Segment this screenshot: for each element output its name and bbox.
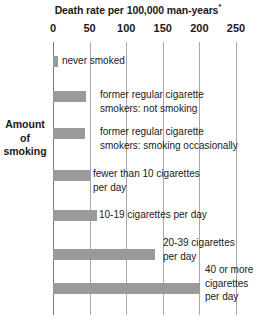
bar-category-label: 40 or more cigarettes per day [205,263,253,304]
bar [53,283,200,294]
bar [53,56,58,67]
bar [53,128,85,139]
bar-category-label: former regular cigarette smokers: not sm… [100,88,204,115]
bar-category-label: fewer than 10 cigarettes per day [93,167,200,194]
bar-category-label: former regular cigarette smokers: smokin… [100,125,238,152]
gridline-50 [90,42,91,315]
bar [53,210,97,221]
bar-chart-figure: Death rate per 100,000 man-years* 050100… [0,0,276,322]
bar [53,170,90,181]
bar [53,249,155,260]
bar [53,91,86,102]
bar-category-label: 10-19 cigarettes per day [99,208,207,222]
bar-category-label: 20-39 cigarettes per day [163,236,235,263]
y-axis-title: Amount of smoking [0,118,50,159]
plot-area: never smokedformer regular cigarette smo… [0,0,276,322]
bar-category-label: never smoked [62,54,125,68]
